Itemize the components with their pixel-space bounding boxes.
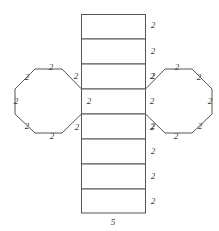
dim-label-right-octagon-right: 2 [208,97,213,106]
dim-label-left-octagon-upper-right: 2 [74,72,79,81]
dim-label-right-octagon-lower-right: 2 [198,122,203,131]
dim-label-column-left-mid: 2 [87,97,92,106]
dim-label-column-bottom: 5 [111,218,116,227]
dim-label-left-octagon-upper-left: 2 [25,73,30,82]
dim-label-left-octagon-top: 2 [49,63,54,72]
lateral-face-5 [82,114,146,139]
dim-label-right-octagon-upper-left: 2 [150,72,155,81]
dim-label-column-right-4: 2 [150,97,155,106]
dim-label-left-octagon-left: 2 [14,97,19,106]
dim-label-right-octagon-upper-right: 2 [197,73,202,82]
dim-label-column-right-1: 2 [151,21,156,30]
dim-label-left-octagon-bottom: 2 [50,132,55,141]
lateral-face-6 [82,139,146,164]
net-drawing [0,0,219,231]
lateral-face-7 [82,164,146,189]
dim-label-column-right-6: 2 [151,147,156,156]
lateral-faces-column-group [82,15,146,214]
dim-label-column-right-8: 2 [151,197,156,206]
dim-label-right-octagon-lower-left: 2 [150,123,155,132]
dim-label-left-octagon-lower-left: 2 [25,122,30,131]
lateral-face-8 [82,189,146,213]
dim-label-column-right-7: 2 [151,172,156,181]
dim-label-right-octagon-bottom: 2 [174,132,179,141]
dim-label-column-right-2: 2 [151,47,156,56]
lateral-face-2 [82,39,146,64]
dim-label-left-octagon-lower-right: 2 [75,123,80,132]
lateral-face-3 [82,64,146,89]
octagonal-prism-net-figure: 2 2 2 2 2 2 2 2 2 5 2 2 2 2 2 2 2 2 2 2 … [0,0,219,231]
lateral-face-1 [82,15,146,40]
dim-label-right-octagon-top: 2 [175,63,180,72]
